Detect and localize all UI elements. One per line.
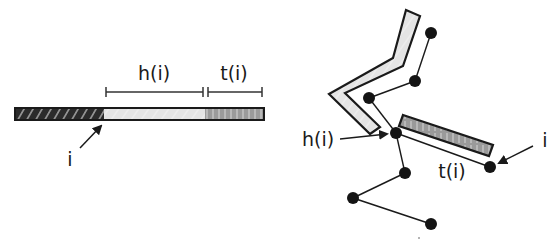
node [425, 27, 437, 39]
node [399, 167, 411, 179]
head-label-left: h(i) [138, 62, 170, 84]
node-index [484, 161, 496, 173]
node-head [390, 127, 402, 139]
bar-prefix-segment [15, 108, 104, 120]
index-arrow-right [499, 146, 533, 163]
sequence-bar [15, 108, 264, 120]
stray-dot [418, 237, 420, 239]
diagram-canvas: h(i) t(i) i [0, 0, 556, 244]
index-arrow-left [80, 126, 101, 148]
right-panel: h(i) t(i) i [302, 10, 548, 239]
bar-tail-segment [205, 108, 264, 120]
head-bracket [106, 87, 203, 97]
tail-label-right: t(i) [438, 160, 466, 182]
left-panel: h(i) t(i) i [15, 62, 264, 170]
head-arrow-right [340, 134, 387, 139]
tail-region-band [399, 115, 493, 156]
head-label-right: h(i) [302, 128, 334, 150]
tail-bracket [208, 87, 262, 97]
node [363, 92, 375, 104]
index-label-right: i [542, 129, 547, 151]
node [425, 218, 437, 230]
node [409, 75, 421, 87]
tail-label-left: t(i) [220, 62, 248, 84]
bar-head-segment [104, 108, 205, 120]
node [347, 192, 359, 204]
index-label-left: i [67, 148, 72, 170]
